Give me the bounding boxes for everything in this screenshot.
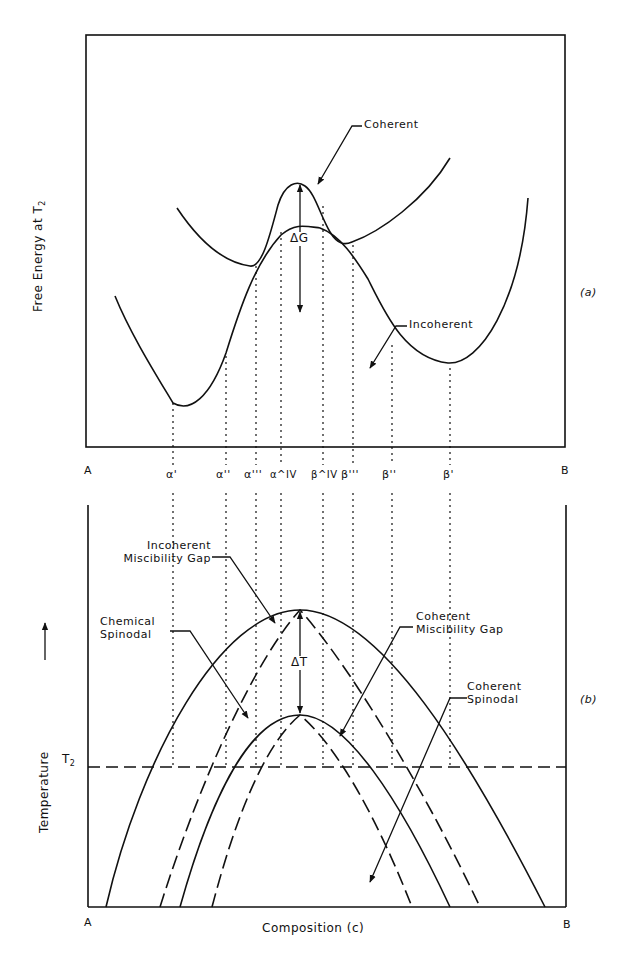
panel-a-frame: [86, 35, 565, 447]
incoherent-gap-label-line2: Miscibility Gap: [95, 553, 211, 566]
free-energy-subscript: 2: [38, 200, 47, 206]
coherent-spinodal-curve: [212, 715, 412, 907]
incoherent-gap-label: Incoherent Miscibility Gap: [95, 540, 211, 565]
marker-beta-3: β''': [341, 469, 359, 482]
coherent-curve: [177, 158, 450, 266]
t2-label-text: T: [62, 752, 70, 766]
composition-axis-label: Composition (c): [262, 922, 364, 936]
free-energy-axis-label: Free Energy at T2: [32, 200, 48, 312]
incoherent-gap-leader: [212, 557, 275, 623]
panel-a-tag: (a): [580, 287, 597, 300]
coherent-gap-label-line1: Coherent: [416, 611, 504, 624]
chemical-spinodal-label: Chemical Spinodal: [100, 616, 155, 641]
temperature-axis-label: Temperature: [38, 751, 52, 833]
chemical-spinodal-leader: [170, 631, 248, 718]
incoherent-leader: [370, 326, 407, 368]
free-energy-label-text: Free Energy at T: [31, 206, 45, 312]
marker-alpha-3: α''': [244, 469, 262, 482]
incoherent-gap-label-line1: Incoherent: [95, 540, 211, 553]
coherent-gap-label: Coherent Miscibility Gap: [416, 611, 504, 636]
marker-beta-2: β'': [382, 469, 397, 482]
marker-alpha-1: α': [166, 469, 177, 482]
coherent-leader: [318, 126, 362, 184]
incoherent-curve: [115, 198, 528, 406]
marker-beta-1: β': [443, 469, 454, 482]
incoherent-label: Incoherent: [409, 319, 473, 332]
incoherent-miscibility-gap-curve: [106, 610, 545, 907]
coherent-spinodal-label-line1: Coherent: [467, 681, 521, 694]
axis-a-label-bottom: A: [84, 917, 92, 930]
marker-alpha-2: α'': [216, 469, 231, 482]
chemical-spinodal-curve: [160, 610, 480, 907]
axis-b-label-top: B: [561, 465, 569, 478]
phase-diagram-figure: [0, 0, 638, 966]
t2-subscript: 2: [70, 759, 76, 768]
delta-g-label: ΔG: [290, 232, 309, 246]
coherent-gap-label-line2: Miscibility Gap: [416, 624, 504, 637]
marker-alpha-4: α^IV: [270, 469, 297, 481]
chemical-spinodal-label-line1: Chemical: [100, 616, 155, 629]
coherent-label: Coherent: [364, 119, 418, 132]
axis-a-label-top: A: [84, 465, 92, 478]
coherent-spinodal-label-line2: Spinodal: [467, 694, 521, 707]
axis-b-label-bottom: B: [563, 919, 571, 932]
marker-beta-4: β^IV: [311, 469, 338, 481]
coherent-spinodal-label: Coherent Spinodal: [467, 681, 521, 706]
delta-t-label: ΔT: [291, 656, 308, 670]
coherent-gap-leader: [340, 627, 413, 736]
panel-b-tag: (b): [580, 694, 597, 707]
chemical-spinodal-label-line2: Spinodal: [100, 629, 155, 642]
t2-label: T2: [62, 753, 75, 769]
coherent-spinodal-leader: [370, 698, 467, 882]
